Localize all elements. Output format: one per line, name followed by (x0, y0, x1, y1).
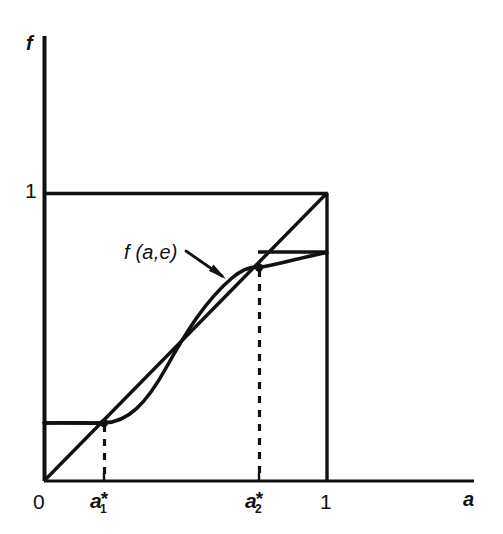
y-axis-label: f (26, 33, 33, 53)
x-axis-label: a (463, 489, 474, 509)
curve-label: f (a,e) (124, 242, 178, 262)
y-tick-label-1: 1 (25, 180, 37, 201)
figure-container: f a 1 0 a*1 a*2 1 f (a,e) (0, 0, 503, 534)
a2-subscript: 2 (255, 502, 262, 516)
fixed-point-curve (44, 253, 327, 424)
x-tick-label-a1-star: a*1 (90, 489, 107, 515)
x-tick-label-0: 0 (33, 491, 45, 512)
plot-canvas (0, 0, 503, 534)
marker-a1-star (100, 419, 108, 427)
marker-a2-star (255, 263, 263, 271)
x-tick-label-a2-star: a*2 (245, 489, 262, 515)
curve-label-arrow-icon (186, 251, 226, 279)
a1-subscript: 1 (100, 502, 107, 516)
x-tick-label-1: 1 (320, 491, 332, 512)
